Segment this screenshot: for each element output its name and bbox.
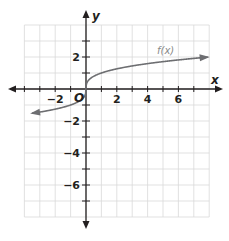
- y-axis-label: y: [92, 9, 101, 23]
- axes: [8, 10, 223, 229]
- y-tick-label: −4: [63, 147, 80, 160]
- y-tick-label: 2: [72, 51, 80, 64]
- curve-label: f(x): [157, 45, 174, 56]
- grid: [24, 25, 209, 217]
- origin-label: O: [74, 91, 84, 105]
- x-tick-label: 4: [144, 93, 152, 106]
- y-tick-label: −6: [63, 179, 80, 192]
- tick-labels: −22462−2−4−6: [47, 51, 183, 192]
- x-tick-label: 2: [113, 93, 121, 106]
- x-tick-label: −2: [47, 93, 64, 106]
- curve-arrowheads: [30, 54, 210, 115]
- y-tick-label: −2: [63, 115, 80, 128]
- x-tick-label: 6: [175, 93, 183, 106]
- cube-root-graph: −22462−2−4−6 x y O f(x): [0, 0, 229, 241]
- x-axis-label: x: [210, 73, 220, 87]
